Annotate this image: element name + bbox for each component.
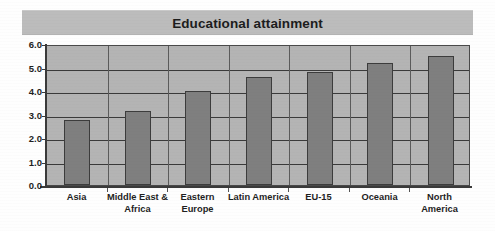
category-separator	[229, 46, 230, 185]
bar	[125, 111, 151, 185]
chart-figure: Educational attainment 6.05.04.03.02.01.…	[0, 0, 495, 231]
x-axis-tick-label: NorthAmerica	[397, 192, 482, 215]
y-axis-tick-label: 5.0	[12, 64, 42, 74]
category-separator	[410, 46, 411, 185]
category-separator	[168, 46, 169, 185]
y-axis-tick-label: 0.0	[12, 181, 42, 191]
category-separator	[289, 46, 290, 185]
y-axis-tick-label: 1.0	[12, 158, 42, 168]
y-axis-tick-label: 6.0	[12, 40, 42, 50]
y-axis-tick-mark	[42, 139, 47, 140]
y-axis-tick-label: 3.0	[12, 111, 42, 121]
bar	[428, 56, 454, 185]
chart-title: Educational attainment	[22, 11, 473, 36]
y-axis-tick-mark	[42, 163, 47, 164]
bar	[185, 91, 211, 185]
x-axis-tick-label-line: North	[397, 192, 482, 204]
y-axis-tick-mark	[42, 45, 47, 46]
y-axis-tick-mark	[42, 69, 47, 70]
plot-area	[46, 45, 470, 186]
x-axis-tick-label-line: Europe	[155, 204, 240, 216]
bar	[367, 63, 393, 185]
category-separator	[350, 46, 351, 185]
bar	[307, 72, 333, 185]
y-axis-tick-label: 2.0	[12, 134, 42, 144]
bar	[246, 77, 272, 185]
y-axis-tick-mark	[42, 186, 47, 187]
bar	[64, 120, 90, 185]
gridline	[47, 70, 469, 71]
y-axis-tick-label: 4.0	[12, 87, 42, 97]
x-axis-tick-label-line: America	[397, 204, 482, 216]
x-axis-line	[40, 186, 472, 188]
chart-title-banner: Educational attainment	[22, 10, 473, 35]
y-axis-tick-mark	[42, 92, 47, 93]
category-separator	[108, 46, 109, 185]
y-axis-tick-mark	[42, 116, 47, 117]
